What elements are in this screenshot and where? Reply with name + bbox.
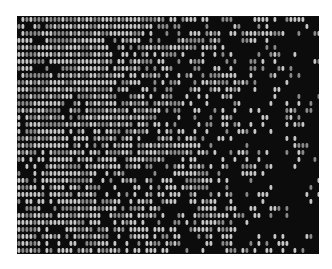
fabric-texture-canvas [17, 16, 319, 254]
fabric-texture-photo [17, 16, 319, 254]
